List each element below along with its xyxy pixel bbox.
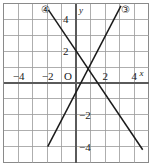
x-tick-label: 2 bbox=[102, 71, 108, 82]
series-label: ④ bbox=[41, 5, 50, 15]
x-tick-label: 4 bbox=[131, 71, 137, 82]
coordinate-plane-figure: −4−22442−2−4Oxy④③ bbox=[0, 0, 152, 166]
y-tick-label: −4 bbox=[79, 142, 91, 153]
x-tick-label: −2 bbox=[42, 71, 54, 82]
y-tick-label: 2 bbox=[63, 46, 69, 57]
x-tick-label: −4 bbox=[13, 71, 25, 82]
graph-canvas bbox=[0, 0, 152, 166]
y-axis-name: y bbox=[79, 6, 83, 15]
series-label: ③ bbox=[121, 5, 130, 15]
y-tick-label: 4 bbox=[63, 14, 69, 25]
x-axis-name: x bbox=[140, 69, 144, 78]
y-tick-label: −2 bbox=[79, 110, 91, 121]
origin-label: O bbox=[64, 71, 72, 82]
